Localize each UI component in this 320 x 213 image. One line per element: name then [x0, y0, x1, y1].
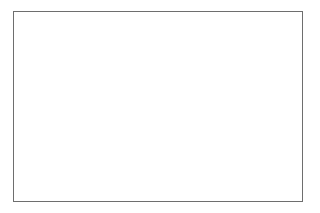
chart-figure: Response over Time by Drug Efficacy 0510…	[0, 0, 320, 213]
figure-frame	[13, 11, 303, 202]
